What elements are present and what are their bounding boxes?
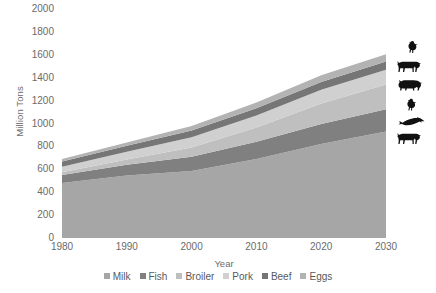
chart-legend: MilkFishBroilerPorkBeefEggs <box>0 268 436 284</box>
y-axis-tick-label: 1800 <box>18 27 54 37</box>
chicken-icon <box>403 40 420 54</box>
y-axis-tick-label: 1400 <box>18 73 54 83</box>
legend-item-label: Eggs <box>309 271 332 282</box>
x-axis-tick-label: 1980 <box>40 241 84 253</box>
y-axis-tick-label: 1200 <box>18 96 54 106</box>
legend-swatch-icon <box>104 273 110 279</box>
legend-item-label: Pork <box>232 271 253 282</box>
legend-item-broiler[interactable]: Broiler <box>176 271 214 282</box>
y-axis-tick-label: 800 <box>18 141 54 151</box>
legend-swatch-icon <box>223 273 229 279</box>
legend-item-label: Broiler <box>185 271 214 282</box>
cow-icon <box>397 60 425 73</box>
y-axis-tick-label: 600 <box>18 164 54 174</box>
legend-item-beef[interactable]: Beef <box>262 271 292 282</box>
y-axis-tick-label: 1000 <box>18 119 54 129</box>
stacked-area-chart: Million Tons 200018001600140012001000800… <box>0 0 436 293</box>
area-series-group <box>62 9 386 238</box>
cow-icon <box>397 132 425 145</box>
legend-swatch-icon <box>176 273 182 279</box>
x-axis-tick-labels: 198019902000201020202030 <box>0 241 436 257</box>
legend-item-label: Fish <box>149 271 168 282</box>
y-axis-tick-label: 2000 <box>18 4 54 14</box>
animal-silhouette-group <box>387 40 435 145</box>
x-axis-tick-label: 2030 <box>364 241 408 253</box>
legend-item-pork[interactable]: Pork <box>223 271 253 282</box>
legend-item-label: Beef <box>271 271 292 282</box>
x-axis-tick-label: 1990 <box>105 241 149 253</box>
y-axis-tick-label: 400 <box>18 187 54 197</box>
y-axis-tick-labels: 2000180016001400120010008006004002000 <box>10 0 54 250</box>
y-axis-tick-label: 1600 <box>18 50 54 60</box>
legend-item-fish[interactable]: Fish <box>140 271 168 282</box>
pig-icon <box>398 79 424 91</box>
legend-item-label: Milk <box>113 271 131 282</box>
legend-swatch-icon <box>140 273 146 279</box>
x-axis-tick-label: 2020 <box>299 241 343 253</box>
legend-swatch-icon <box>262 273 268 279</box>
x-axis-tick-label: 2000 <box>170 241 214 253</box>
legend-item-eggs[interactable]: Eggs <box>300 271 332 282</box>
hen-icon <box>403 98 419 111</box>
plot-area <box>62 9 386 238</box>
legend-item-milk[interactable]: Milk <box>104 271 131 282</box>
y-axis-tick-label: 200 <box>18 210 54 220</box>
fish-icon <box>398 117 425 126</box>
x-axis-tick-label: 2010 <box>234 241 278 253</box>
legend-swatch-icon <box>300 273 306 279</box>
